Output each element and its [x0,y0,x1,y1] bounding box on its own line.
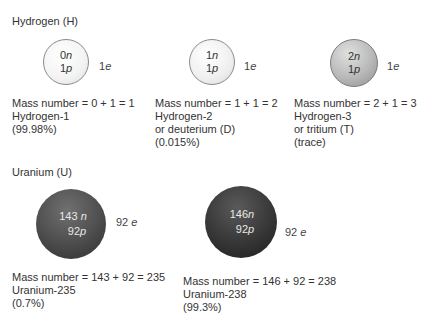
uranium-heading: Uranium (U) [12,166,72,178]
hydrogen-1-nucleus: 0n 1p [43,39,89,85]
hydrogen-2-electrons: 1e [244,60,256,72]
isotope-name: Hydrogen-1 [12,110,135,123]
mass-equation: Mass number = 146 + 92 = 238 [183,275,336,288]
abundance: (0.015%) [155,136,278,149]
hydrogen-1-description: Mass number = 0 + 1 = 1 Hydrogen-1 (99.9… [12,97,135,136]
isotope-name: Uranium-235 [12,284,165,297]
abundance: (99.98%) [12,123,135,136]
proton-symbol: p [66,62,72,74]
proton-symbol: p [212,62,218,74]
hydrogen-3-description: Mass number = 2 + 1 = 3 Hydrogen-3 or tr… [294,97,417,149]
neutron-symbol: n [212,49,218,61]
uranium-235-nucleus: 143 n 92p [36,189,106,259]
neutron-count: 143 [59,210,80,222]
proton-symbol: p [248,223,254,235]
mass-equation: Mass number = 0 + 1 = 1 [12,97,135,110]
mass-equation: Mass number = 1 + 1 = 2 [155,97,278,110]
mass-equation: Mass number = 143 + 92 = 235 [12,271,165,284]
proton-symbol: p [80,225,86,237]
hydrogen-3-nucleus: 2n 1p [330,39,378,87]
uranium-238-description: Mass number = 146 + 92 = 238 Uranium-238… [183,275,336,314]
neutron-symbol: n [248,208,254,220]
uranium-235-electrons: 92 e [116,216,137,228]
neutron-symbol: n [354,50,360,62]
proton-count: 92 [68,225,80,237]
neutron-symbol: n [81,210,87,222]
isotope-alt-name: or deuterium (D) [155,123,278,136]
uranium-235-description: Mass number = 143 + 92 = 235 Uranium-235… [12,271,165,310]
uranium-238-nucleus: 146n 92p [205,186,277,258]
isotope-name: Hydrogen-3 [294,110,417,123]
neutron-symbol: n [66,49,72,61]
isotope-name: Hydrogen-2 [155,110,278,123]
proton-symbol: p [354,63,360,75]
abundance: (trace) [294,136,417,149]
isotope-alt-name: or tritium (T) [294,123,417,136]
abundance: (99.3%) [183,301,336,314]
hydrogen-2-description: Mass number = 1 + 1 = 2 Hydrogen-2 or de… [155,97,278,149]
hydrogen-1-electrons: 1e [99,60,111,72]
abundance: (0.7%) [12,297,165,310]
hydrogen-heading: Hydrogen (H) [12,15,78,27]
uranium-238-electrons: 92 e [285,226,306,238]
neutron-count: 146 [230,208,248,220]
hydrogen-2-nucleus: 1n 1p [189,39,235,85]
isotope-name: Uranium-238 [183,288,336,301]
hydrogen-3-electrons: 1e [387,60,399,72]
proton-count: 92 [236,223,248,235]
mass-equation: Mass number = 2 + 1 = 3 [294,97,417,110]
